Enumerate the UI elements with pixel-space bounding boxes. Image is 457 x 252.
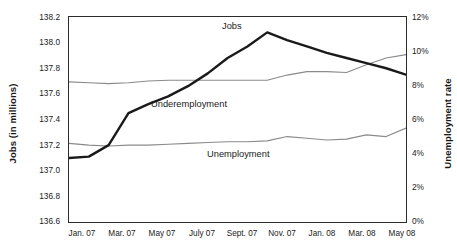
y-tick-left-138-0: 138.0 xyxy=(28,37,60,47)
y-tick-left-138-2: 138.2 xyxy=(28,12,60,22)
y-tick-right-8: 8% xyxy=(412,80,444,90)
y-tick-right-2: 2% xyxy=(412,182,444,192)
series-label-underemployment: Underemployment xyxy=(151,99,227,109)
y-tick-left-137-8: 137.8 xyxy=(28,63,60,73)
employment-chart: Jobs (in millions) Unemployment rate 138… xyxy=(0,0,457,252)
y-tick-left-137-2: 137.2 xyxy=(28,140,60,150)
plot-area xyxy=(68,16,407,223)
y-tick-left-137-6: 137.6 xyxy=(28,88,60,98)
y-tick-right-4: 4% xyxy=(412,148,444,158)
series-line-underemployment xyxy=(69,55,406,84)
y-axis-left-title: Jobs (in millions) xyxy=(7,49,18,199)
y-tick-right-10: 10% xyxy=(412,46,444,56)
y-tick-left-136-6: 136.6 xyxy=(28,216,60,226)
x-tick-may-08: May 08 xyxy=(379,229,425,238)
series-label-unemployment: Unemployment xyxy=(207,149,270,159)
y-tick-left-136-8: 136.8 xyxy=(28,191,60,201)
series-line-unemployment xyxy=(69,128,406,146)
series-label-jobs: Jobs xyxy=(222,21,242,31)
y-tick-left-137-4: 137.4 xyxy=(28,114,60,124)
y-tick-left-137-0: 137.0 xyxy=(28,165,60,175)
y-tick-right-6: 6% xyxy=(412,114,444,124)
series-canvas xyxy=(69,17,406,222)
y-tick-right-12: 12% xyxy=(412,12,444,22)
y-tick-right-0: 0% xyxy=(412,216,444,226)
series-line-jobs xyxy=(69,32,406,158)
